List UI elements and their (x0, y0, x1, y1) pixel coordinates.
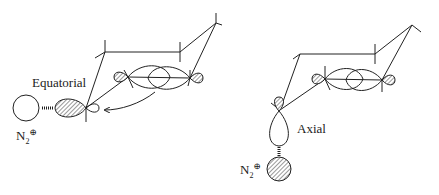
n2-orbital-right (267, 157, 291, 181)
equatorial-panel (13, 13, 222, 122)
overlap-arrow (105, 92, 155, 110)
equatorial-label: Equatorial (32, 76, 86, 89)
positive-charge-icon: ⊕ (253, 161, 261, 171)
axial-panel (267, 25, 421, 181)
n2-orbital-left (13, 95, 39, 121)
n2-symbol: N (240, 162, 249, 177)
axial-label: Axial (297, 122, 326, 135)
n2-label-left: N2⊕ (16, 128, 37, 146)
cn-orbital-right (267, 97, 291, 181)
n2-subscript: 2 (249, 171, 253, 180)
ring-skeleton-right (271, 25, 421, 110)
ring-skeleton-left (86, 13, 222, 122)
orbital-diagram: Equatorial N2⊕ Axial N2⊕ (0, 0, 439, 195)
n2-label-right: N2⊕ (240, 162, 261, 180)
n2-subscript: 2 (25, 137, 29, 146)
diagram-canvas (0, 0, 439, 195)
positive-charge-icon: ⊕ (29, 127, 37, 137)
n2-symbol: N (16, 128, 25, 143)
